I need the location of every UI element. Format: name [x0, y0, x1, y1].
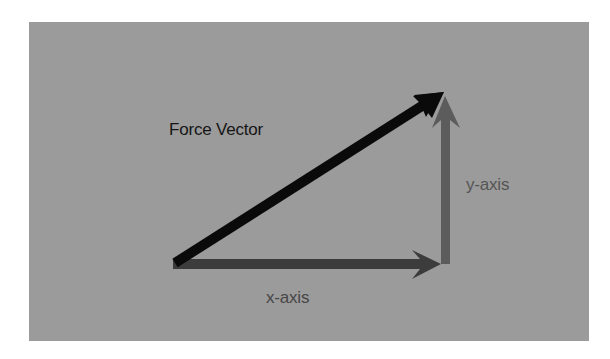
x-axis-label: x-axis [266, 289, 309, 306]
y-axis-arrow [432, 96, 460, 264]
force-vector-arrow [175, 92, 444, 263]
x-axis-arrow [173, 250, 441, 279]
force-vector-label: Force Vector [169, 121, 263, 138]
y-axis-label: y-axis [466, 176, 509, 193]
